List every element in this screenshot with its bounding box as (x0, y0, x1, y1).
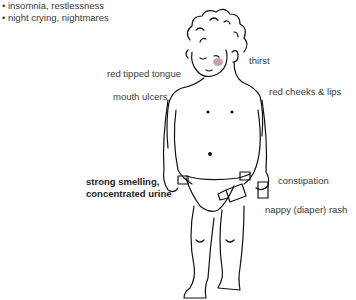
label-thirst: thirst (249, 55, 270, 66)
label-urine-line2: concentrated urine (86, 188, 172, 199)
child-figure-illustration (0, 0, 356, 300)
label-red-tipped-tongue: red tipped tongue (107, 68, 181, 79)
label-mouth-ulcers: mouth ulcers (113, 91, 167, 102)
label-nappy-rash: nappy (diaper) rash (265, 204, 347, 215)
label-red-cheeks-lips: red cheeks & lips (269, 86, 341, 97)
label-urine-line1: strong smelling, (86, 176, 159, 187)
label-constipation: constipation (278, 175, 329, 186)
diaper (186, 178, 234, 211)
hair (186, 9, 247, 58)
bottle (218, 184, 246, 202)
red-cheek (213, 58, 223, 66)
